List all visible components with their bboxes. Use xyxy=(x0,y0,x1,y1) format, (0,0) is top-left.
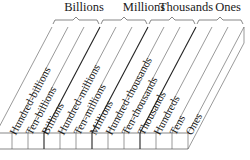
place-value-chart: Billions Millions Thousands Ones Hundred… xyxy=(0,0,250,160)
group-label-ones: Ones xyxy=(215,0,241,15)
group-label-thousands: Thousands xyxy=(159,0,213,15)
group-label-billions: Billions xyxy=(64,0,104,15)
